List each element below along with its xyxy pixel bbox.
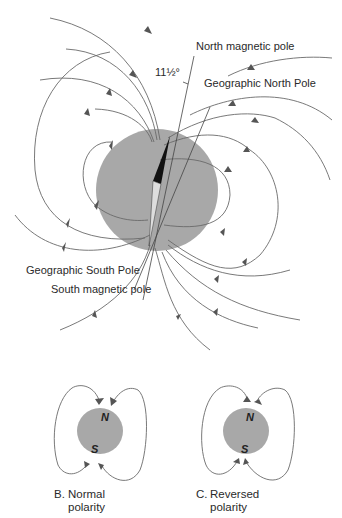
panel-b-normal-polarity: [54, 386, 146, 481]
panel-c-caption: C.Reversed polarity: [196, 488, 259, 514]
panel-c-reversed-polarity: [202, 386, 295, 480]
label-south-magnetic-pole: South magnetic pole: [51, 283, 151, 295]
panel-b-caption-line2: polarity: [54, 501, 105, 514]
label-geographic-north-pole: Geographic North Pole: [204, 77, 316, 89]
panel-c-caption-line2: polarity: [196, 501, 259, 514]
panel-b-north-label: N: [101, 411, 109, 423]
panel-b-caption: B.Normal polarity: [54, 488, 105, 514]
label-north-magnetic-pole: North magnetic pole: [196, 40, 294, 52]
panel-b-letter: B.: [54, 488, 68, 501]
panel-c-caption-line1: Reversed: [210, 488, 259, 500]
angle-label: 11½°: [155, 66, 180, 78]
panel-b-south-label: S: [91, 443, 98, 455]
panel-b-caption-line1: Normal: [68, 488, 105, 500]
earth-globe-b: [77, 408, 123, 454]
panel-c-south-label: S: [241, 443, 248, 455]
panel-c-letter: C.: [196, 488, 210, 501]
label-geographic-south-pole: Geographic South Pole: [26, 264, 140, 276]
panel-c-north-label: N: [246, 411, 254, 423]
